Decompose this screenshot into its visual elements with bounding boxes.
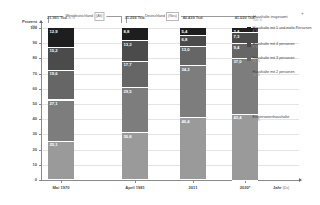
legend-swatch <box>247 43 251 47</box>
bar-segment-value: 9,4 <box>234 45 240 50</box>
bar-segment: 5,4 <box>180 28 206 36</box>
legend-share: 39 % <box>253 119 290 123</box>
bar-segment: 30,8 <box>122 133 148 180</box>
bar-segment-value: 34,3 <box>182 67 190 72</box>
bar-segment: 19,6 <box>48 71 74 101</box>
bar: 5,46,813,034,340,4 <box>180 28 206 180</box>
y-tick-label: 0 <box>15 178 37 182</box>
legend-share: 13 % <box>253 60 295 64</box>
bar-total-label: 40.439 Tsd. <box>183 16 204 20</box>
legend-label: Haushalte mit 3 personen13 % <box>253 56 295 64</box>
legend-item[interactable]: Einpersonenhaushalte39 % <box>247 115 289 123</box>
x-tick-mark <box>135 181 136 183</box>
legend-item[interactable]: Haushalte mit 2 personen35 % <box>247 70 295 78</box>
bar-segment-value: 29,5 <box>124 89 132 94</box>
bar-segment: 17,7 <box>122 62 148 89</box>
x-tick-label: 2011 <box>180 186 206 191</box>
bar-segment: 40,4 <box>180 118 206 179</box>
bar-total-note: in % <box>68 16 75 20</box>
bar-total-value: 21.991 Tsd. <box>47 15 68 20</box>
bar-segment-value: 13,0 <box>182 47 190 52</box>
y-tick-label: 100 <box>15 26 37 30</box>
y-tick-label: 80 <box>15 56 37 60</box>
group-tag: (Neu) <box>166 12 179 21</box>
legend-label: Haushalte mit 2 personen35 % <box>253 70 295 78</box>
bar-segment: 13,3 <box>122 41 148 61</box>
y-tick-label: 90 <box>15 41 37 45</box>
x-tick-mark <box>245 181 246 183</box>
bar: 8,813,317,729,530,8 <box>122 28 148 180</box>
bar-segment-value: 7,3 <box>234 34 240 39</box>
bar-total-value: 40.439 Tsd. <box>183 15 204 20</box>
legend-item[interactable]: Haushalte mit 5 und mehr Personen4 % <box>247 26 312 34</box>
legend-item[interactable]: Haushalte mit 4 personen9 % <box>247 42 295 50</box>
bar-segment: 15,2 <box>48 48 74 71</box>
y-tick-label: 70 <box>15 72 37 76</box>
y-tick-label: 40 <box>15 117 37 121</box>
legend-swatch <box>247 71 251 75</box>
y-tick-label: 10 <box>15 163 37 167</box>
legend-label: Haushalte mit 4 personen9 % <box>253 42 295 50</box>
bar-total-label: 31.256 Tsd. <box>125 16 146 20</box>
legend-share: 9 % <box>253 46 295 50</box>
x-tick-label: April 1981 <box>122 186 148 191</box>
legend-swatch <box>247 27 251 31</box>
group-tag: (Alt) <box>94 12 105 21</box>
legend-swatch <box>247 57 251 61</box>
bar-segment-value: 12,9 <box>50 29 58 34</box>
bar-total-label: 21.991 Tsd. in % <box>47 16 75 20</box>
legend-item[interactable]: Haushalte mit 3 personen13 % <box>247 56 295 64</box>
grid-line <box>41 89 299 90</box>
bar-segment-value: 13,3 <box>124 42 132 47</box>
bar-segment-value: 17,7 <box>124 62 132 67</box>
group-label: Deutschland(Neu) <box>143 12 181 21</box>
grid-line <box>41 104 299 105</box>
legend-label: Einpersonenhaushalte39 % <box>253 115 290 123</box>
x-axis-title: Jahr (Ds) <box>273 186 289 191</box>
bar-segment-value: 37,0 <box>234 59 242 64</box>
grid-line <box>41 150 299 151</box>
x-tick-label: Mai 1970 <box>48 186 74 191</box>
bar-segment: 6,8 <box>180 36 206 46</box>
bar-segment: 13,0 <box>180 47 206 67</box>
legend-title: Haushalte insgesamt 100 % <box>253 15 287 23</box>
bar-total-value: 31.256 Tsd. <box>125 15 146 20</box>
bar-segment: 43,4 <box>232 115 258 181</box>
bar-segment: 27,1 <box>48 101 74 142</box>
bar-segment-value: 15,2 <box>50 48 58 53</box>
bar-segment-value: 8,8 <box>124 29 130 34</box>
bar-segment: 25,1 <box>48 142 74 180</box>
grid-line <box>41 134 299 135</box>
bar-segment: 29,5 <box>122 88 148 133</box>
x-axis-arrow-icon <box>299 178 302 182</box>
y-axis-arrow-icon <box>39 20 43 23</box>
plus-icon: + <box>301 11 304 16</box>
bar-segment-value: 25,1 <box>50 142 58 147</box>
bar: 12,915,219,627,125,1 <box>48 28 74 180</box>
bar-segment-value: 43,4 <box>234 115 242 120</box>
bar-segment-value: 30,8 <box>124 134 132 139</box>
legend-share: 35 % <box>253 74 295 78</box>
x-tick-mark <box>61 181 62 183</box>
bar: 3,47,39,437,043,4 <box>232 28 258 180</box>
y-tick-label: 20 <box>15 148 37 152</box>
chart-root: Westdeutschland(Alt) Deutschland(Neu) + … <box>0 0 320 205</box>
bar-segment-value: 27,1 <box>50 101 58 106</box>
grid-line <box>41 165 299 166</box>
x-tick-label: 2030* <box>232 186 258 191</box>
y-tick-label: 60 <box>15 87 37 91</box>
bar-segment-value: 40,4 <box>182 119 190 124</box>
legend-label: Haushalte mit 5 und mehr Personen4 % <box>253 26 312 34</box>
bar-segment: 34,3 <box>180 66 206 118</box>
bar-segment: 37,0 <box>232 59 258 115</box>
y-axis <box>41 23 42 180</box>
bar-segment-value: 5,4 <box>182 29 188 34</box>
x-tick-mark <box>193 181 194 183</box>
bar-segment: 12,9 <box>48 28 74 48</box>
bar-segment: 8,8 <box>122 28 148 41</box>
bar-segment-value: 19,6 <box>50 71 58 76</box>
legend-share: 4 % <box>253 30 312 34</box>
legend-swatch <box>247 116 251 120</box>
y-tick-label: 50 <box>15 102 37 106</box>
y-tick-label: 30 <box>15 132 37 136</box>
